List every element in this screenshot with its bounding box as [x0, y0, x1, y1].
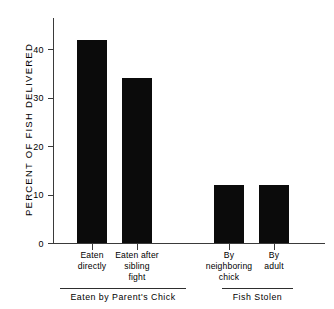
y-tick-40 [48, 49, 54, 50]
group-label-eaten-by-parents-chick: Eaten by Parent's Chick [50, 292, 196, 302]
category-label-line: chick [196, 272, 262, 283]
y-tick-0 [48, 243, 54, 244]
group-rule-fish-stolen [222, 288, 293, 289]
y-tick-label-40: 40 [20, 45, 44, 55]
y-tick-20 [48, 146, 54, 147]
y-tick-10 [48, 195, 54, 196]
y-tick-label-30: 30 [20, 93, 44, 103]
y-tick-30 [48, 98, 54, 99]
bar-eaten-after-sibling-fight [122, 78, 152, 243]
y-axis-title: PERCENT OF FISH DELIVERED [23, 24, 34, 236]
bar-by-neighboring-chick [214, 185, 244, 243]
category-label-line: Eaten after [107, 250, 167, 261]
bar-chart-figure: PERCENT OF FISH DELIVERED 0 10 20 30 40 … [0, 0, 334, 309]
x-axis-line [53, 243, 325, 244]
bar-by-adult [259, 185, 289, 243]
y-tick-label-0: 0 [20, 239, 44, 249]
y-axis-line [53, 18, 54, 244]
group-label-fish-stolen: Fish Stolen [212, 292, 303, 302]
category-label-line: By [252, 250, 296, 261]
category-label-by-adult: By adult [252, 250, 296, 272]
bar-eaten-directly [77, 40, 107, 244]
category-label-line: sibling [107, 261, 167, 272]
group-rule-eaten-by-parents-chick [60, 288, 186, 289]
y-tick-label-20: 20 [20, 142, 44, 152]
category-label-eaten-after-sibling-fight: Eaten after sibling fight [107, 250, 167, 284]
y-tick-label-10: 10 [20, 190, 44, 200]
category-label-line: fight [107, 272, 167, 283]
category-label-line: adult [252, 261, 296, 272]
